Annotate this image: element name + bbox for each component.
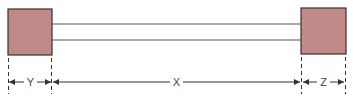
dimension-label-z: Z — [320, 76, 327, 88]
left-block — [8, 9, 52, 55]
dimension-diagram: Y X Z — [0, 0, 358, 99]
dimension-label-y: Y — [27, 76, 35, 88]
dimension-label-x: X — [173, 76, 181, 88]
right-block — [301, 8, 346, 54]
